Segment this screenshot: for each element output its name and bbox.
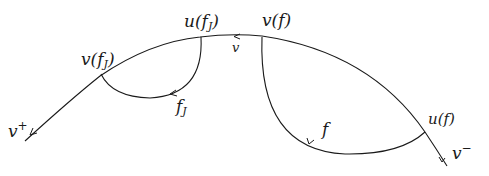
label-v-minus: v− [452, 142, 472, 162]
label-v-fJ: v(fJ) [81, 51, 115, 70]
label-arc-fJ: fJ [176, 98, 187, 117]
arrow-icon-f [307, 138, 314, 144]
arc-f [262, 37, 425, 154]
diagram-canvas: v+ v(fJ) u(fJ) v v(f) fJ f u(f) v− [0, 0, 489, 176]
label-v-plus: v+ [8, 120, 28, 140]
arc-fJ [101, 37, 201, 98]
label-u-fJ: u(fJ) [184, 13, 219, 32]
label-arc-f: f [322, 121, 328, 138]
diagram-graphics [0, 0, 489, 176]
label-edge-v: v [232, 41, 239, 54]
label-u-f: u(f) [428, 112, 455, 127]
label-v-f: v(f) [262, 12, 291, 29]
